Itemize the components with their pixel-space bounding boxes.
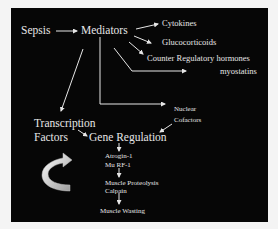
node-myostatins: myostatins [220, 67, 257, 76]
node-cytokines: Cytokines [162, 19, 196, 28]
node-atrogin: Atrogin-1 [105, 153, 133, 160]
node-sepsis: Sepsis [21, 25, 50, 37]
node-cofactors: Cofactors [174, 117, 201, 124]
node-wasting: Muscle Wasting [100, 208, 145, 215]
node-proteolysis: Muscle Proteolysis [105, 180, 158, 187]
node-glucocorticoids: Glucocorticoids [162, 38, 216, 47]
curved-arrow-icon [42, 153, 72, 191]
node-nuclear: Nuclear [174, 106, 196, 113]
node-factors: Factors [34, 132, 68, 144]
node-mediators: Mediators [81, 25, 128, 37]
node-transcription: Transcription [34, 118, 96, 130]
node-murf: Mu RF-1 [105, 162, 131, 169]
node-gene-regulation: Gene Regulation [89, 132, 167, 144]
node-calpain: Calpain [105, 188, 127, 195]
node-counter-regulatory: Counter Regulatory hormones [147, 54, 250, 63]
